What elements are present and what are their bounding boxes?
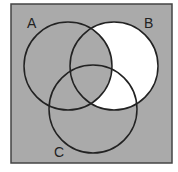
venn-diagram: A B C	[0, 0, 178, 172]
label-c: C	[54, 144, 64, 160]
label-b: B	[144, 15, 153, 31]
label-a: A	[27, 15, 37, 31]
